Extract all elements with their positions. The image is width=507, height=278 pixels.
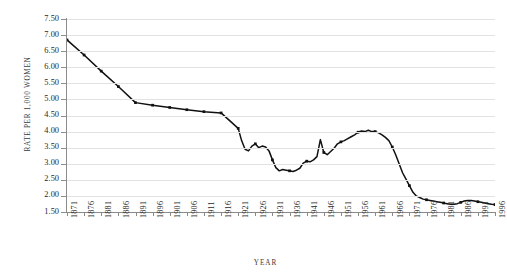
y-axis-tick (61, 180, 66, 181)
y-axis-tick (61, 116, 66, 117)
x-axis-tick (238, 212, 239, 216)
y-axis-tick-label: 6.50 (1, 47, 59, 55)
x-axis-tick (84, 212, 85, 216)
x-axis-tick-label: 1981 (447, 201, 456, 218)
data-point-marker (271, 159, 274, 162)
x-axis-tick (272, 212, 273, 216)
data-point-marker (117, 85, 120, 88)
gridline (67, 196, 495, 197)
data-point-marker (442, 202, 445, 205)
y-axis-tick-label: 5.50 (1, 79, 59, 87)
x-axis-tick (204, 212, 205, 216)
y-axis-tick (61, 132, 66, 133)
y-axis-tick-label: 1.50 (1, 208, 59, 216)
data-point-marker (254, 142, 257, 145)
data-point-marker (203, 110, 206, 113)
x-axis-tick-label: 1891 (139, 201, 148, 218)
x-axis-tick (392, 212, 393, 216)
y-axis-tick (61, 196, 66, 197)
x-axis-tick-label: 1936 (293, 201, 302, 218)
gridline (67, 51, 495, 52)
y-axis-tick (61, 83, 66, 84)
data-point-marker (220, 112, 223, 115)
y-axis-tick (61, 51, 66, 52)
x-axis-tick-label: 1951 (344, 201, 353, 218)
data-point-marker (425, 198, 428, 201)
x-axis-tick-label: 1956 (361, 201, 370, 218)
data-point-marker (477, 200, 480, 203)
data-point-marker (305, 160, 308, 163)
data-point-marker (322, 151, 325, 154)
gridline (67, 132, 495, 133)
data-point-marker (100, 70, 103, 73)
y-axis-tick (61, 212, 66, 213)
gridline (67, 67, 495, 68)
gridline (67, 83, 495, 84)
x-axis-tick (67, 212, 68, 216)
x-axis-tick-label: 1911 (207, 201, 216, 218)
x-axis-tick-label: 1901 (173, 201, 182, 218)
y-axis-tick-label: 4.00 (1, 127, 59, 135)
x-axis-tick-label: 1906 (190, 201, 199, 218)
y-axis-tick-label: 7.50 (1, 15, 59, 23)
data-point-marker (185, 108, 188, 111)
y-axis-tick (61, 99, 66, 100)
x-axis-tick-label: 1916 (224, 201, 233, 218)
x-axis-tick (221, 212, 222, 216)
y-axis-tick (61, 148, 66, 149)
data-point-marker (134, 101, 137, 104)
gridline (67, 116, 495, 117)
data-point-marker (168, 106, 171, 109)
data-point-marker (459, 201, 462, 204)
x-axis-tick (255, 212, 256, 216)
x-axis-tick (307, 212, 308, 216)
data-point-marker (340, 141, 343, 144)
x-axis-tick (478, 212, 479, 216)
x-axis-tick-label: 1931 (276, 201, 285, 218)
gridline (67, 99, 495, 100)
y-axis-tick (61, 19, 66, 20)
x-axis-tick-label: 1881 (104, 201, 113, 218)
x-axis-tick-label: 1871 (70, 201, 79, 218)
x-axis-tick (495, 212, 496, 216)
x-axis-tick (461, 212, 462, 216)
y-axis-tick (61, 164, 66, 165)
x-axis-tick (358, 212, 359, 216)
x-axis-tick (101, 212, 102, 216)
y-axis-tick (61, 35, 66, 36)
y-axis-labels: 7.507.006.506.005.505.004.504.003.503.00… (0, 0, 59, 278)
y-axis-tick-label: 7.00 (1, 31, 59, 39)
x-axis-tick-label: 1876 (87, 201, 96, 218)
chart-figure: RATE PER 1,000 WOMEN YEAR 7.507.006.506.… (0, 0, 507, 278)
x-axis-tick (153, 212, 154, 216)
gridline (67, 164, 495, 165)
y-axis-tick-label: 4.50 (1, 111, 59, 119)
x-axis-tick-label: 1986 (464, 201, 473, 218)
data-point-marker (288, 169, 291, 172)
y-axis-tick-label: 3.50 (1, 143, 59, 151)
x-axis-tick-label: 1886 (122, 201, 131, 218)
x-axis-tick-label: 1941 (310, 201, 319, 218)
y-axis-tick-label: 3.00 (1, 159, 59, 167)
data-point-marker (151, 104, 154, 107)
gridline (67, 19, 495, 20)
data-point-marker (494, 203, 495, 206)
x-axis-tick (324, 212, 325, 216)
x-axis-tick-label: 1946 (327, 201, 336, 218)
gridline (67, 35, 495, 36)
x-axis-tick (290, 212, 291, 216)
x-axis-tick-label: 1996 (498, 201, 507, 218)
x-axis-title-text: YEAR (254, 259, 277, 267)
x-axis-tick-label: 1926 (259, 201, 268, 218)
y-axis-tick (61, 67, 66, 68)
x-axis-tick-label: 1991 (481, 201, 490, 218)
x-axis-tick (427, 212, 428, 216)
gridline (67, 180, 495, 181)
plot-area (67, 19, 495, 212)
x-axis-title: YEAR (0, 259, 507, 267)
x-axis-tick-label: 1896 (156, 201, 165, 218)
x-axis-tick (375, 212, 376, 216)
y-axis-tick-label: 2.50 (1, 175, 59, 183)
x-axis-tick-label: 1966 (396, 201, 405, 218)
x-axis-tick-label: 1976 (430, 201, 439, 218)
